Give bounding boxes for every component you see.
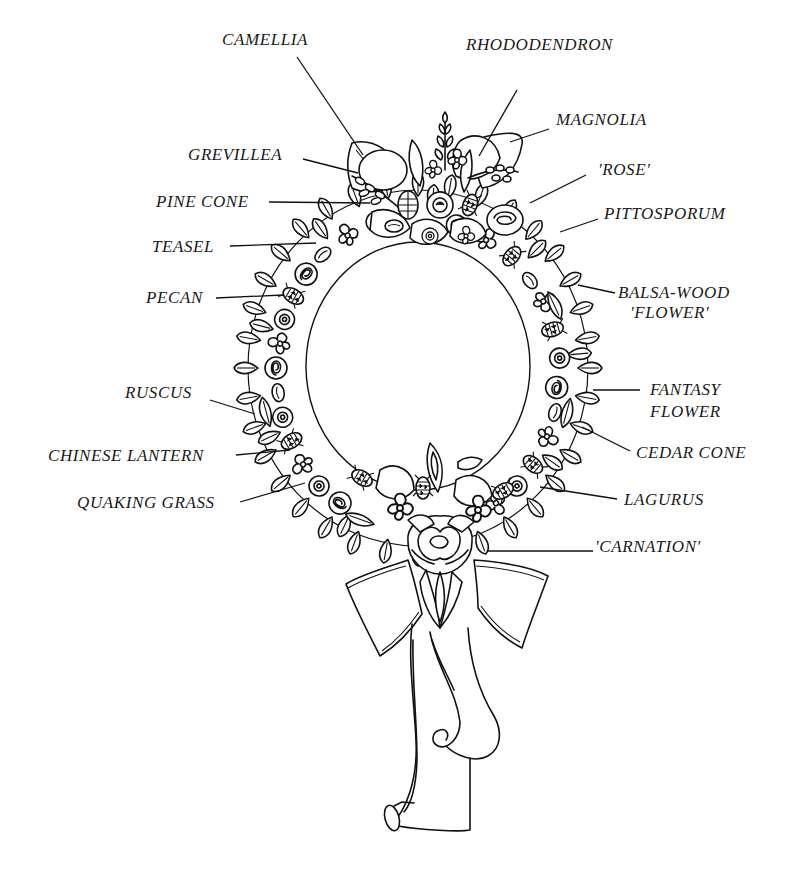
label-pecan: PECAN [146,288,203,308]
label-lagurus: LAGURUS [624,490,704,510]
top-arrangement [348,112,523,244]
label-camellia: CAMELLIA [222,30,308,50]
wreath-diagram: CAMELLIA RHODODENDRON MAGNOLIA GREVILLEA… [0,0,804,881]
label-pittosporum: PITTOSPORUM [604,204,726,224]
label-cedar-cone: CEDAR CONE [636,443,746,463]
ribbon-tails [382,624,500,832]
label-balsa-wood: BALSA-WOOD [618,283,730,303]
label-quaking-grass: QUAKING GRASS [77,493,215,513]
label-carnation: 'CARNATION' [595,537,701,557]
label-pine-cone: PINE CONE [156,192,249,212]
label-grevillea: GREVILLEA [188,145,282,165]
leader-line-rose [530,175,586,203]
leader-line-lagurus [540,487,617,499]
label-ruscus: RUSCUS [125,383,192,403]
label-fantasy-flower: FLOWER [650,402,721,422]
leader-line-cedar-cone [582,427,630,451]
label-magnolia: MAGNOLIA [556,110,647,130]
label-balsa-wood-flower: 'FLOWER' [630,303,709,323]
label-chinese-lantern: CHINESE LANTERN [48,446,204,466]
leader-line-balsa-wood-flower [578,285,615,293]
wreath-illustration [0,0,804,881]
leader-line-camellia [297,57,363,155]
leader-line-pittosporum [560,219,598,232]
label-fantasy: FANTASY [650,380,721,400]
label-teasel: TEASEL [152,237,214,257]
label-rose: 'ROSE' [598,160,650,180]
label-rhododendron: RHODODENDRON [466,35,613,55]
bow [346,560,548,656]
